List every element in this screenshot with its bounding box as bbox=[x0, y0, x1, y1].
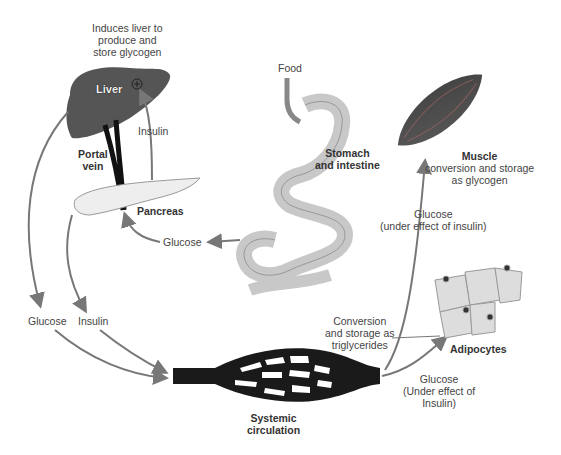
stomach-line: and intestine bbox=[315, 159, 380, 171]
portal-line: Portal bbox=[78, 148, 108, 160]
conversion-line: and storage as bbox=[325, 327, 394, 339]
systemic-circulation-icon bbox=[173, 348, 380, 402]
systemic-line: Systemic bbox=[247, 412, 300, 424]
induces-line: Induces liver to bbox=[92, 22, 163, 34]
conversion-label: Conversion and storage as triglycerides bbox=[325, 315, 394, 351]
muscle-icon bbox=[386, 60, 494, 159]
insulin-left-label: Insulin bbox=[78, 315, 108, 327]
conversion-line: Conversion bbox=[325, 315, 394, 327]
adipocytes-label: Adipocytes bbox=[450, 343, 507, 355]
glucose-adipo-label: Glucose (Under effect of Insulin) bbox=[403, 373, 475, 409]
insulin-top-label: Insulin bbox=[138, 125, 168, 137]
glucose-adipo-line: Insulin) bbox=[403, 397, 475, 409]
portal-line: vein bbox=[78, 160, 108, 172]
glucose-adipo-line: Glucose bbox=[403, 373, 475, 385]
conversion-line: triglycerides bbox=[325, 339, 394, 351]
muscle-line: as glycogen bbox=[425, 174, 534, 186]
muscle-label: Muscle conversion and storage as glycoge… bbox=[425, 150, 534, 186]
systemic-label: Systemic circulation bbox=[247, 412, 300, 436]
induces-line: produce and bbox=[92, 34, 163, 46]
systemic-line: circulation bbox=[247, 424, 300, 436]
glucose-muscle-line: (under effect of insulin) bbox=[380, 220, 487, 232]
glucose-adipo-line: (Under effect of bbox=[403, 385, 475, 397]
stomach-line: Stomach bbox=[315, 147, 380, 159]
induces-line: store glycogen bbox=[92, 46, 163, 58]
glucose-left-label: Glucose bbox=[28, 315, 67, 327]
food-label: Food bbox=[278, 62, 302, 74]
stomach-label: Stomach and intestine bbox=[315, 147, 380, 171]
adipocytes-icon bbox=[435, 265, 522, 338]
pancreas-label: Pancreas bbox=[137, 205, 184, 217]
portal-vein-label: Portal vein bbox=[78, 148, 108, 172]
stomach-intestine-icon bbox=[244, 78, 345, 290]
glucose-muscle-line: Glucose bbox=[380, 208, 487, 220]
muscle-line: conversion and storage bbox=[425, 162, 534, 174]
glucose-muscle-label: Glucose (under effect of insulin) bbox=[380, 208, 487, 232]
liver-label: Liver bbox=[96, 83, 122, 95]
muscle-title: Muscle bbox=[425, 150, 534, 162]
glucose-gut-label: Glucose bbox=[163, 236, 202, 248]
induces-label: Induces liver to produce and store glyco… bbox=[92, 22, 163, 58]
